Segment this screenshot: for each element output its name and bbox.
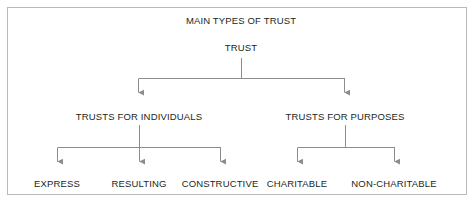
diagram-title: MAIN TYPES OF TRUST [186,15,296,26]
node-express: EXPRESS [34,178,80,189]
node-trusts-for-individuals: TRUSTS FOR INDIVIDUALS [76,111,202,122]
trust-types-diagram: MAIN TYPES OF TRUST TRUST TRUSTS FOR IND… [0,0,476,209]
node-resulting: RESULTING [111,178,166,189]
node-non-charitable: NON-CHARITABLE [351,178,436,189]
node-charitable: CHARITABLE [267,178,327,189]
node-trust: TRUST [225,42,257,53]
node-constructive: CONSTRUCTIVE [182,178,259,189]
node-trusts-for-purposes: TRUSTS FOR PURPOSES [286,111,405,122]
